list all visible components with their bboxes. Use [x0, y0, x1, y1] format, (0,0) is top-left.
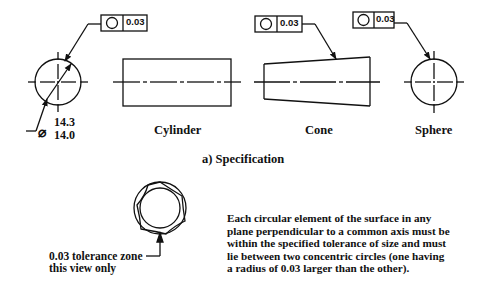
fcf-leader-1: [65, 24, 101, 61]
tolerance-zone-figure: [134, 182, 186, 256]
cone-label: Cone: [305, 123, 333, 138]
fcf-2-tolerance: 0.03: [280, 17, 299, 28]
fcf-1-tolerance: 0.03: [126, 16, 145, 27]
sphere-shape: [404, 51, 464, 113]
fcf-leader-2: [302, 24, 336, 59]
diameter-symbol: ⌀: [38, 124, 46, 141]
fcf-leader-3: [394, 23, 430, 59]
diameter-lower-limit: 14.0: [54, 128, 75, 143]
explanation-line-5: a radius of 0.03 larger than the other).: [227, 262, 477, 275]
explanation-paragraph: Each circular element of the surface in …: [227, 212, 477, 275]
figure-caption: a) Specification: [202, 152, 284, 167]
explanation-line-1: Each circular element of the surface in …: [227, 212, 477, 225]
fcf-3-tolerance: 0.03: [376, 13, 395, 24]
tolerance-zone-label-line2: this view only: [49, 262, 116, 274]
cylinder-shape: [113, 59, 241, 106]
sphere-label: Sphere: [415, 123, 452, 138]
explanation-line-4: lie between two concentric circles (one …: [227, 250, 477, 263]
cylinder-label: Cylinder: [154, 123, 201, 138]
explanation-line-3: within the specified tolerance of size a…: [227, 237, 477, 250]
tolerance-zone-label-line1: 0.03 tolerance zone: [49, 250, 143, 262]
explanation-line-2: plane perpendicular to a common axis mus…: [227, 225, 477, 238]
cone-shape: [254, 57, 380, 106]
